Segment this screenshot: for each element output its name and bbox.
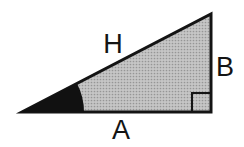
- angle-wedge: [22, 84, 84, 113]
- label-side-a: A: [112, 115, 130, 145]
- label-hypotenuse: H: [103, 29, 123, 59]
- right-triangle-diagram: H B A: [0, 0, 244, 147]
- right-triangle-figure: H B A: [0, 0, 244, 147]
- label-side-b: B: [216, 52, 234, 82]
